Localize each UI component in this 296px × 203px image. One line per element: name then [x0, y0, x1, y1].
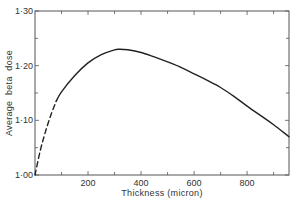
axis-ticks	[35, 11, 289, 175]
plot-frame	[35, 11, 289, 175]
x-axis-label: Thickness (micron)	[121, 188, 202, 198]
y-axis-label: Average beta dose	[4, 50, 14, 136]
dashed-curve	[35, 101, 56, 175]
x-tick-labels: 200400600800	[81, 178, 255, 188]
plot-border	[35, 11, 289, 175]
x-tick-label: 800	[240, 178, 255, 188]
x-tick-label: 400	[134, 178, 149, 188]
chart: 200400600800 1·001·101·201·30 Thickness …	[0, 0, 296, 203]
y-tick-label: 1·10	[15, 115, 33, 125]
y-tick-label: 1·20	[15, 61, 33, 71]
x-tick-label: 200	[81, 178, 96, 188]
solid-curve	[56, 49, 289, 136]
y-tick-labels: 1·001·101·201·30	[15, 6, 33, 180]
y-tick-label: 1·00	[15, 170, 33, 180]
curves	[35, 49, 289, 175]
y-tick-label: 1·30	[15, 6, 33, 16]
x-tick-label: 600	[187, 178, 202, 188]
